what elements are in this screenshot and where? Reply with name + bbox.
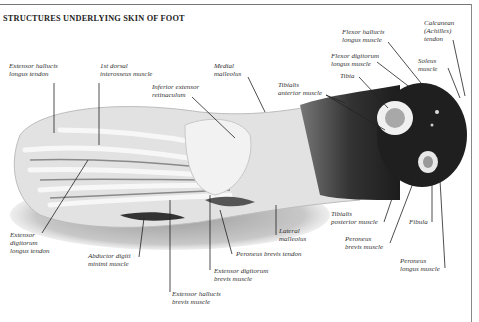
leg-cross-section — [377, 83, 467, 187]
label-extensor-digitorum-longus-tendon: Extensor digitorum longus tendon — [10, 231, 49, 255]
label-tibialis-posterior-muscle: Tibialis posterior muscle — [331, 210, 378, 226]
label-calcanean-achilles-tendon: Calcanean (Achilles) tendon — [424, 19, 454, 43]
label-flexor-hallucis-longus-muscle: Flexor hallucis longus muscle — [342, 28, 385, 44]
label-extensor-hallucis-brevis-muscle: Extensor hallucis brevis muscle — [172, 290, 221, 306]
label-fibula: Fibula — [409, 218, 428, 226]
label-flexor-digitorum-longus-muscle: Flexor digitorum longus muscle — [331, 52, 379, 68]
label-abductor-digiti-minimi-muscle: Abductor digiti minimi muscle — [88, 252, 131, 268]
label-peroneus-brevis-muscle: Peroneus brevis muscle — [345, 235, 383, 251]
label-peroneus-longus-muscle: Peroneus longus muscle — [400, 257, 440, 273]
label-extensor-digitorum-brevis-muscle: Extensor digitorum brevis muscle — [214, 267, 268, 283]
label-lateral-malleolus: Lateral malleolus — [279, 227, 306, 243]
label-extensor-hallucis-longus-tendon: Extensor hallucis longus tendon — [9, 62, 58, 78]
label-peroneus-brevis-tendon: Peroneus brevis tendon — [236, 250, 302, 258]
label-first-dorsal-interosseus-muscle: 1st dorsal interosseus muscle — [100, 62, 152, 78]
label-tibialis-anterior-muscle: Tibialis anterior muscle — [278, 81, 322, 97]
label-medial-malleolus: Medial malleolus — [214, 62, 241, 78]
label-soleus-muscle: Soleus muscle — [418, 57, 437, 73]
label-tibia: Tibia — [340, 72, 354, 80]
label-inferior-extensor-retinaculum: Inferior extensor retinaculum — [152, 83, 199, 99]
